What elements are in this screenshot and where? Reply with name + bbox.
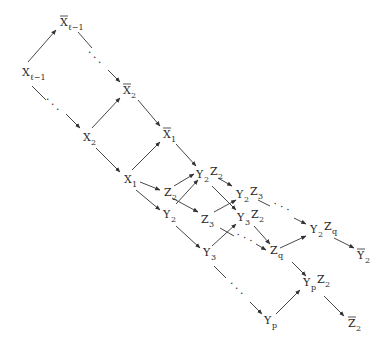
edge-X2-X1: [96, 148, 120, 172]
svg-text:X: X: [60, 16, 68, 29]
svg-text:Y: Y: [309, 223, 318, 236]
svg-text:Z: Z: [324, 220, 332, 233]
svg-text:Z: Z: [201, 213, 209, 226]
node-Z2: Z2: [164, 186, 177, 202]
edge-Xl1-X2: [66, 114, 80, 128]
svg-text:Z: Z: [317, 273, 325, 286]
svg-text:2: 2: [318, 230, 323, 239]
svg-text:X: X: [83, 131, 91, 144]
svg-text:3: 3: [258, 192, 263, 201]
edge-Xbl1-Xb2: [108, 70, 120, 82]
svg-text:Z: Z: [250, 185, 258, 198]
edge-Xl1-Xbl1: [28, 30, 56, 62]
node-Zq: Zq: [270, 244, 283, 260]
svg-text:Z: Z: [348, 317, 356, 330]
svg-text:Z: Z: [270, 244, 278, 257]
svg-text:X: X: [22, 66, 30, 79]
node-Y3Z2: Y3Z2: [236, 208, 264, 227]
svg-text:Y: Y: [235, 188, 244, 201]
node-Y2: Y2: [162, 208, 176, 224]
svg-text:X: X: [163, 128, 171, 141]
svg-text:2: 2: [325, 280, 330, 289]
node-X1: X1: [124, 173, 137, 189]
node-Xbl1: Xℓ−1: [60, 16, 84, 32]
edge-Y2Z3-Y2Zq: [294, 218, 306, 224]
svg-text:X: X: [123, 84, 131, 97]
edge-Y3Z2-Zq: [254, 226, 270, 244]
svg-text:ℓ−1: ℓ−1: [68, 23, 84, 32]
svg-text:2: 2: [218, 172, 223, 181]
edge-YpZ2-Zb2: [324, 296, 344, 316]
node-YpZ2: YpZ2: [302, 273, 330, 292]
node-Y2Z3: Y2Z3: [235, 185, 263, 204]
svg-text:p: p: [272, 321, 277, 330]
svg-text:Y: Y: [302, 276, 311, 289]
svg-text:3: 3: [245, 218, 250, 227]
node-Xb2: X2: [123, 84, 136, 100]
edge-Yp-YpZ2: [276, 290, 300, 314]
svg-text:Y: Y: [162, 208, 171, 221]
svg-text:Y: Y: [236, 211, 245, 224]
node-Y3: Y3: [202, 246, 216, 262]
edge-Z3-Zq: [220, 228, 234, 236]
edge-Y3-Yp: [214, 266, 226, 278]
node-Yp: Yp: [263, 314, 277, 330]
edge-Y2-Y2Z2: [176, 180, 198, 204]
svg-text:Z: Z: [164, 186, 172, 199]
ellipsis-dots: · · ·: [271, 197, 292, 216]
svg-text:1: 1: [132, 180, 137, 189]
svg-text:Y: Y: [356, 249, 365, 262]
edge-Xb2-Xb1: [138, 100, 160, 126]
node-Yb2: Y2: [356, 249, 370, 265]
svg-text:X: X: [124, 173, 132, 186]
svg-text:Y: Y: [195, 168, 204, 181]
node-Xl1: Xℓ−1: [22, 66, 46, 82]
edge-X2-Xb2: [92, 98, 120, 128]
ellipsis-dots: · · ·: [234, 228, 255, 247]
ellipsis-layer: · · ·· · ·· · ·· · ·· · ·: [42, 47, 292, 300]
ellipsis-dots: · · ·: [226, 278, 248, 300]
svg-text:2: 2: [356, 324, 361, 333]
svg-text:1: 1: [171, 135, 176, 144]
edge-X1-Xb1: [132, 142, 160, 170]
svg-text:ℓ−1: ℓ−1: [30, 73, 46, 82]
svg-text:Y: Y: [263, 314, 272, 327]
svg-text:2: 2: [244, 195, 249, 204]
svg-text:Z: Z: [210, 165, 218, 178]
lattice-diagram: · · ·· · ·· · ·· · ·· · · Xℓ−1Xℓ−1X2X2X1…: [0, 0, 383, 348]
edges-layer: [28, 30, 354, 316]
node-X2: X2: [83, 131, 96, 147]
edge-Z2-Y2Z2: [174, 174, 194, 186]
node-Zb2: Z2: [348, 317, 361, 333]
svg-text:2: 2: [91, 138, 96, 147]
edge-Xbl1-Xb2: [78, 32, 92, 48]
nodes-layer: Xℓ−1Xℓ−1X2X2X1X1Y2Z2Z2Y2Z3Y2Z3Y3Z2ZqY3Y2…: [22, 16, 370, 333]
edge-X1-Z2: [140, 182, 160, 190]
svg-text:3: 3: [211, 253, 216, 262]
node-Z3: Z3: [201, 213, 214, 229]
node-Y2Zq: Y2Zq: [309, 220, 337, 239]
svg-text:q: q: [278, 251, 283, 260]
svg-text:p: p: [311, 283, 316, 292]
svg-text:2: 2: [259, 215, 264, 224]
svg-text:Y: Y: [202, 246, 211, 259]
svg-text:2: 2: [171, 215, 176, 224]
ellipsis-dots: · · ·: [84, 47, 106, 69]
svg-text:2: 2: [131, 91, 136, 100]
edge-Zq-YpZ2: [292, 262, 306, 276]
node-Y2Z2: Y2Z2: [195, 165, 223, 184]
node-Xb1: X1: [163, 128, 176, 144]
svg-text:2: 2: [365, 256, 370, 265]
svg-text:3: 3: [209, 220, 214, 229]
svg-text:2: 2: [204, 175, 209, 184]
edge-Zq-Y2Zq: [280, 236, 306, 248]
edge-Z3-Zq: [256, 244, 266, 250]
svg-text:q: q: [332, 227, 337, 236]
edge-Z3-Y2Z3: [214, 200, 236, 212]
svg-text:Z: Z: [251, 208, 259, 221]
edge-X1-Y2: [136, 190, 160, 210]
ellipsis-dots: · · ·: [42, 94, 64, 116]
svg-text:2: 2: [172, 193, 177, 202]
edge-Xb1-Y2Z2: [176, 144, 196, 166]
edge-Y2Zq-Yb2: [334, 238, 354, 248]
